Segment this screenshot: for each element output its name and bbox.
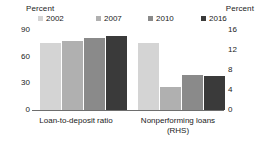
legend-item-2010[interactable]: 2010 bbox=[148, 14, 174, 23]
category-label-line-2: (RHS) bbox=[126, 126, 230, 136]
legend-item-2007[interactable]: 2007 bbox=[96, 14, 122, 23]
bar-loan-to-deposit-ratio-2002 bbox=[40, 43, 61, 110]
bar-loan-to-deposit-ratio-2007 bbox=[62, 41, 83, 110]
right-tick-12: 12 bbox=[228, 46, 254, 54]
legend-swatch-icon-2010 bbox=[148, 16, 153, 21]
legend-item-2016[interactable]: 2016 bbox=[201, 14, 227, 23]
legend-swatch-icon-2002 bbox=[38, 16, 43, 21]
category-label-line-1: Nonperforming loans bbox=[126, 116, 230, 126]
category-label-nonperforming-loans: Nonperforming loans (RHS) bbox=[126, 116, 230, 136]
legend-label-2016: 2016 bbox=[209, 14, 227, 23]
legend-label-2007: 2007 bbox=[104, 14, 122, 23]
plot-area bbox=[34, 30, 218, 110]
category-label-line-1: Loan-to-deposit ratio bbox=[22, 116, 130, 126]
category-label-loan-to-deposit-ratio: Loan-to-deposit ratio bbox=[22, 116, 130, 126]
left-tick-90: 90 bbox=[4, 26, 30, 34]
bar-nonperforming-loans-rhs-2002 bbox=[138, 43, 159, 111]
bar-nonperforming-loans-rhs-2010 bbox=[182, 75, 203, 110]
axis-baseline bbox=[32, 110, 224, 111]
legend-swatch-icon-2007 bbox=[96, 16, 101, 21]
right-tick-0: 0 bbox=[228, 106, 254, 114]
legend-swatch-icon-2016 bbox=[201, 16, 206, 21]
bar-loan-to-deposit-ratio-2016 bbox=[106, 36, 127, 110]
bar-nonperforming-loans-rhs-2016 bbox=[204, 76, 225, 111]
left-tick-60: 60 bbox=[4, 53, 30, 61]
bar-nonperforming-loans-rhs-2007 bbox=[160, 87, 181, 111]
right-tick-4: 4 bbox=[228, 86, 254, 94]
left-tick-30: 30 bbox=[4, 79, 30, 87]
bank-indicators-bar-chart: Percent Percent 2002 2007 2010 2016 9060… bbox=[0, 0, 259, 143]
bar-loan-to-deposit-ratio-2010 bbox=[84, 38, 105, 110]
chart-legend: 2002 2007 2010 2016 bbox=[38, 14, 243, 26]
left-axis-title: Percent bbox=[26, 4, 54, 13]
legend-label-2002: 2002 bbox=[46, 14, 64, 23]
left-tick-0: 0 bbox=[4, 106, 30, 114]
right-axis-tick-labels: 1612840 bbox=[228, 0, 258, 143]
right-tick-8: 8 bbox=[228, 66, 254, 74]
legend-label-2010: 2010 bbox=[156, 14, 174, 23]
legend-item-2002[interactable]: 2002 bbox=[38, 14, 64, 23]
right-tick-16: 16 bbox=[228, 26, 254, 34]
